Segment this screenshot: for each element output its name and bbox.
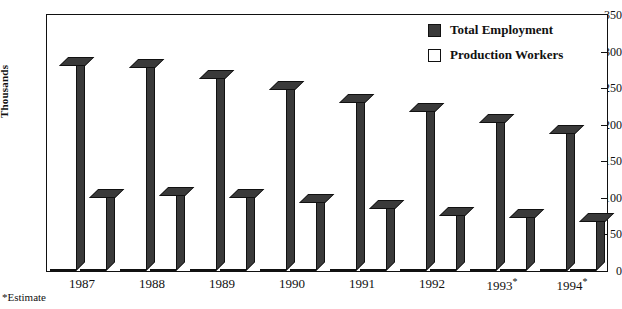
bar-top-face — [479, 114, 514, 123]
bar-side-face — [386, 200, 395, 271]
x-tick-label-1994: 1994* — [537, 276, 607, 294]
bar-top-face — [579, 213, 614, 222]
bar-front-face — [290, 269, 316, 271]
bar-side-face — [176, 187, 185, 271]
bar-production-workers — [220, 198, 246, 271]
legend-item: Total Employment — [428, 22, 563, 38]
bar-total-employment — [400, 112, 426, 271]
bar-top-face — [59, 57, 94, 66]
bar-production-workers — [150, 196, 176, 271]
bar-front-face — [470, 269, 496, 271]
bar-front-face — [360, 269, 386, 271]
bar-top-face — [409, 103, 444, 112]
x-tick-label-1989: 1989 — [187, 276, 257, 292]
bar-production-workers — [360, 209, 386, 271]
x-tick-label-1988: 1988 — [117, 276, 187, 292]
x-tick-label-1987: 1987 — [47, 276, 117, 292]
bar-total-employment — [470, 123, 496, 271]
bar-group — [327, 15, 397, 271]
legend-label: Total Employment — [450, 22, 553, 38]
bar-production-workers — [570, 222, 596, 271]
footnote: *Estimate — [2, 291, 46, 303]
x-tick-label-1993: 1993* — [467, 276, 537, 294]
bar-total-employment — [120, 68, 146, 271]
bar-front-face — [430, 269, 456, 271]
legend-label: Production Workers — [450, 47, 563, 63]
bar-total-employment — [540, 134, 566, 272]
bar-front-face — [400, 269, 426, 271]
bar-front-face — [540, 269, 566, 271]
bar-total-employment — [330, 103, 356, 271]
chart-legend: Total EmploymentProduction Workers — [428, 22, 563, 72]
bar-front-face — [50, 269, 76, 271]
bar-front-face — [330, 269, 356, 271]
bar-front-face — [260, 269, 286, 271]
bar-top-face — [339, 94, 374, 103]
x-tick-label-1991: 1991 — [327, 276, 397, 292]
bar-side-face — [316, 194, 325, 271]
bar-side-face — [246, 189, 255, 271]
bar-top-face — [269, 81, 304, 90]
bar-side-face — [526, 209, 535, 271]
bar-front-face — [570, 269, 596, 271]
bar-total-employment — [50, 66, 76, 271]
bar-production-workers — [80, 198, 106, 271]
bar-front-face — [190, 269, 216, 271]
bar-total-employment — [190, 79, 216, 271]
bar-group — [117, 15, 187, 271]
x-tick-label-1990: 1990 — [257, 276, 327, 292]
bar-production-workers — [500, 218, 526, 271]
bar-production-workers — [290, 203, 316, 271]
x-tick-label-1992: 1992 — [397, 276, 467, 292]
legend-swatch-icon — [428, 24, 441, 37]
bar-total-employment — [260, 90, 286, 271]
bar-front-face — [80, 269, 106, 271]
bar-top-face — [129, 59, 164, 68]
bar-front-face — [120, 269, 146, 271]
bar-side-face — [106, 189, 115, 271]
bar-top-face — [199, 70, 234, 79]
legend-swatch-icon — [428, 49, 441, 62]
bar-front-face — [500, 269, 526, 271]
bar-front-face — [150, 269, 176, 271]
legend-item: Production Workers — [428, 47, 563, 63]
bar-group — [187, 15, 257, 271]
bar-group — [47, 15, 117, 271]
bar-production-workers — [430, 216, 456, 271]
bar-group — [257, 15, 327, 271]
bar-chart: Thousands 350300250200150100500 19871988… — [0, 0, 622, 309]
bar-side-face — [456, 207, 465, 271]
y-axis-title: Thousands — [0, 0, 10, 118]
bar-top-face — [549, 125, 584, 134]
bar-front-face — [220, 269, 246, 271]
